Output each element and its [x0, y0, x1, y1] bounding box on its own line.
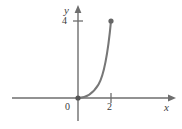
x-tick-label-2: 2 — [107, 102, 112, 112]
x-axis-arrowhead — [168, 95, 176, 102]
y-axis-arrowhead — [75, 5, 82, 13]
y-tick-label-4: 4 — [62, 16, 67, 26]
x-axis-label: x — [164, 102, 169, 113]
curve-endpoint-origin-dot — [75, 95, 80, 100]
function-curve — [78, 21, 111, 98]
plot-canvas — [0, 0, 182, 129]
curve-endpoint-top-dot — [108, 18, 113, 23]
cubic-curve-figure: y x 4 2 0 — [0, 0, 182, 129]
origin-label: 0 — [65, 102, 70, 112]
